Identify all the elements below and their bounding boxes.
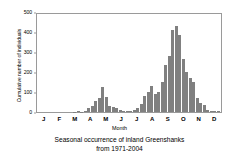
y-tick-label: 400: [24, 30, 32, 35]
bar-series: [37, 14, 221, 112]
caption-line-2: from 1971-2004: [0, 144, 239, 153]
y-tick-label: 0: [29, 110, 32, 115]
chart-caption: Seasonal occurrence of inland Greenshank…: [0, 135, 239, 154]
y-tick-label: 500: [24, 10, 32, 15]
y-tick-label: 100: [24, 90, 32, 95]
y-axis-ticks: 0100200300400500: [0, 13, 36, 113]
y-tick-label: 200: [24, 70, 32, 75]
caption-line-1: Seasonal occurrence of inland Greenshank…: [0, 135, 239, 144]
plot-area: [36, 13, 222, 113]
bar: [217, 111, 220, 112]
y-tick-label: 300: [24, 50, 32, 55]
x-axis-title: Month: [0, 125, 239, 131]
chart-figure: Cumulative number of individuals 0100200…: [0, 0, 239, 159]
